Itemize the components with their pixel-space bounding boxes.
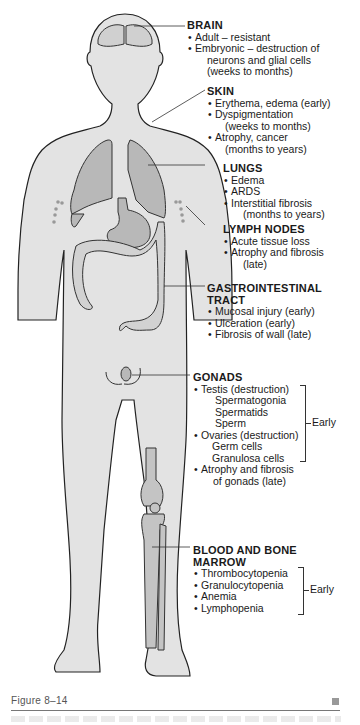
caption-rule	[11, 710, 340, 711]
marrow-early-bracket	[298, 567, 304, 615]
gi-title-line1: GASTROINTESTINAL	[207, 283, 322, 295]
gonads-item-atrophy-cont: of gonads (late)	[193, 476, 298, 488]
gonad-organ	[121, 367, 131, 381]
marrow-item-anemia: Anemia	[193, 591, 297, 603]
lungs-title: LUNGS	[223, 163, 325, 175]
gonads-testis-spermatogonia: Spermatogonia	[193, 395, 298, 407]
label-lymph-nodes: LYMPH NODES Acute tissue loss Atrophy an…	[223, 224, 324, 270]
label-skin: SKIN Erythema, edema (early) Dyspigmenta…	[207, 86, 331, 155]
label-gonads: GONADS Testis (destruction) Spermatogoni…	[193, 372, 298, 487]
gonads-title: GONADS	[193, 372, 298, 384]
lymph-title: LYMPH NODES	[223, 224, 324, 236]
brain-title: BRAIN	[187, 20, 319, 32]
marrow-bracket-tick	[304, 590, 309, 591]
gi-item-fibrosis: Fibrosis of wall (late)	[207, 329, 322, 341]
brain-item-embryonic: Embryonic – destruction of	[187, 43, 319, 55]
skin-item-dyspigmentation: Dyspigmentation	[207, 109, 331, 121]
skin-item-atrophy: Atrophy, cancer	[207, 132, 331, 144]
marrow-early-label: Early	[310, 583, 334, 595]
gonads-bracket-tick	[306, 423, 311, 424]
label-blood-marrow: BLOOD AND BONE MARROW Thrombocytopenia G…	[193, 545, 297, 614]
cut-off-body-text	[11, 716, 341, 722]
label-lungs: LUNGS Edema ARDS Interstitial fibrosis (…	[223, 163, 325, 221]
lungs-item-fibrosis-cont: (months to years)	[223, 209, 325, 221]
caption-end-square	[332, 698, 339, 705]
figure-caption: Figure 8–14	[11, 695, 68, 706]
skin-title: SKIN	[207, 86, 331, 98]
lymph-item-atrophy: Atrophy and fibrosis	[223, 247, 324, 259]
label-gi-tract: GASTROINTESTINAL TRACT Mucosal injury (e…	[207, 283, 322, 341]
brain-item-embryonic-cont2: (weeks to months)	[187, 66, 319, 78]
marrow-item-lymphopenia: Lymphopenia	[193, 603, 297, 615]
skin-item-atrophy-cont: (months to years)	[207, 144, 331, 156]
gonads-ovaries-germ: Germ cells	[193, 441, 298, 453]
lungs-item-ards: ARDS	[223, 186, 325, 198]
gonads-testis-sperm: Sperm	[193, 418, 298, 430]
gonads-item-atrophy: Atrophy and fibrosis	[193, 464, 298, 476]
radiation-effects-body-diagram: BRAIN Adult – resistant Embryonic – dest…	[0, 0, 360, 725]
lymph-item-atrophy-cont: (late)	[223, 259, 324, 271]
marrow-title-line1: BLOOD AND BONE	[193, 545, 297, 557]
skin-leader-line	[152, 90, 205, 122]
label-brain: BRAIN Adult – resistant Embryonic – dest…	[187, 20, 319, 78]
gonads-early-label: Early	[312, 416, 336, 428]
marrow-item-thrombocytopenia: Thrombocytopenia	[193, 568, 297, 580]
gi-item-mucosal: Mucosal injury (early)	[207, 306, 322, 318]
